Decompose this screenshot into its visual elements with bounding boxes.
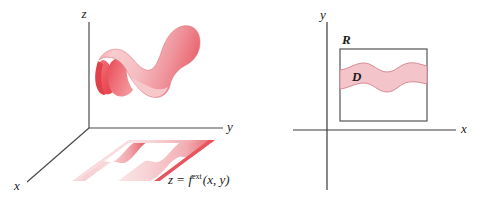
surface-sheet bbox=[95, 26, 200, 98]
z-axis-label: z bbox=[80, 6, 86, 21]
math-figure-surface-and-region: z y x bbox=[0, 0, 479, 204]
rectangle-R-label: R bbox=[341, 32, 351, 47]
equation-superscript: ext bbox=[192, 172, 203, 181]
left-panel-3d: z y x bbox=[13, 6, 233, 193]
x-axis-label-2d: x bbox=[460, 121, 467, 136]
equation-arguments: (x, y) bbox=[203, 172, 230, 187]
right-panel-2d: y x R D bbox=[293, 7, 467, 190]
region-D-label: D bbox=[351, 69, 362, 84]
surface-equation-label: z=fext(x, y) bbox=[167, 172, 230, 187]
x-axis-label: x bbox=[13, 178, 20, 193]
equation-lhs: z bbox=[167, 172, 173, 187]
plane-top-edge bbox=[127, 140, 215, 143]
equation-equals: = bbox=[177, 172, 184, 187]
y-axis-label: y bbox=[225, 119, 233, 134]
y-axis-label-2d: y bbox=[318, 7, 326, 22]
plane-bottom-edge bbox=[70, 181, 162, 184]
x-axis-line bbox=[27, 128, 89, 182]
